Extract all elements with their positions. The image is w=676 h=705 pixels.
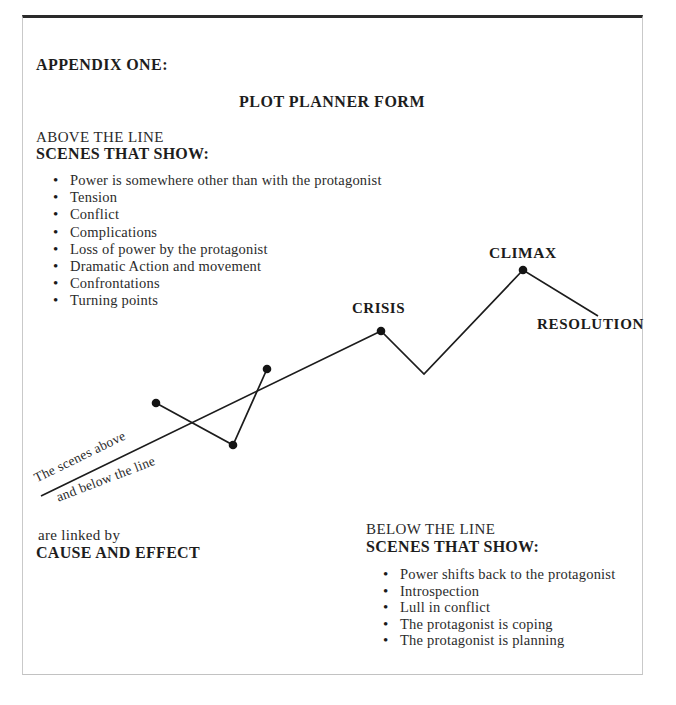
plot-point-dot bbox=[152, 399, 161, 408]
below-the-line-list: Power shifts back to the protagonist Int… bbox=[382, 566, 615, 649]
plot-point-dot bbox=[519, 266, 528, 275]
climax-label: CLIMAX bbox=[489, 244, 557, 262]
zigzag-line bbox=[156, 369, 267, 445]
plot-point-dot bbox=[377, 327, 386, 336]
below-scenes-heading: SCENES THAT SHOW: bbox=[366, 538, 539, 556]
plot-point-dot bbox=[229, 441, 238, 450]
list-item: The protagonist is coping bbox=[382, 616, 615, 633]
list-item: The protagonist is planning bbox=[382, 632, 615, 649]
linked-by-text: are linked by bbox=[38, 527, 120, 544]
below-the-line-heading: BELOW THE LINE bbox=[366, 521, 495, 538]
plot-point-dot bbox=[263, 365, 272, 374]
list-item: Introspection bbox=[382, 583, 615, 600]
resolution-label: RESOLUTION bbox=[537, 316, 644, 333]
list-item: Lull in conflict bbox=[382, 599, 615, 616]
plot-line bbox=[41, 270, 598, 496]
crisis-label: CRISIS bbox=[352, 300, 405, 317]
list-item: Power shifts back to the protagonist bbox=[382, 566, 615, 583]
cause-and-effect-text: CAUSE AND EFFECT bbox=[36, 544, 200, 562]
